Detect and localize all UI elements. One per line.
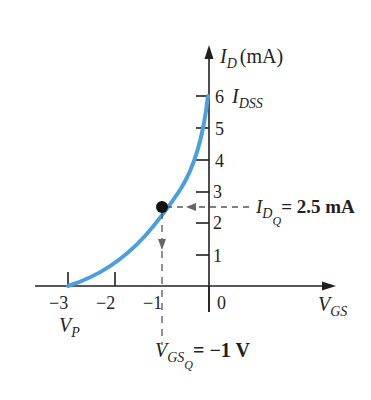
vp-label: VP <box>59 314 80 340</box>
x-axis-label: VGS <box>318 293 347 319</box>
x-tick-label: 0 <box>217 293 226 313</box>
y-tick-label: 4 <box>215 151 224 171</box>
left-arrow-icon <box>186 203 196 211</box>
idq-label: IDQ= 2.5 mA <box>255 196 355 228</box>
x-tick-label: −1 <box>143 293 162 313</box>
y-tick-label: 1 <box>213 246 222 266</box>
y-tick-label: 3 <box>213 182 222 202</box>
x-tick-label: −3 <box>49 293 68 313</box>
y-tick-label: 5 <box>215 119 224 139</box>
y-tick-label: 2 <box>213 213 222 233</box>
down-arrow-icon <box>158 239 166 250</box>
transfer-curve-diagram: 1 2 3 4 5 6 −3 −2 −1 0 ID(mA) IDSS IDQ= … <box>0 0 371 400</box>
q-point <box>156 201 168 213</box>
y-axis-arrow-icon <box>205 45 214 59</box>
y-tick-label: 6 <box>215 87 224 107</box>
x-axis-arrow-icon <box>322 282 336 291</box>
x-tick-label: −2 <box>96 293 115 313</box>
transfer-curve <box>68 96 208 286</box>
vgsq-label: VGSQ= −1 V <box>155 339 250 372</box>
y-ticks <box>196 96 209 255</box>
idss-label: IDSS <box>231 85 263 111</box>
y-axis-label: ID(mA) <box>219 45 283 71</box>
